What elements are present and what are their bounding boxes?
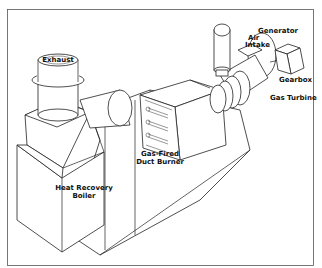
cogeneration-diagram: Exhaust Gas-Fired Duct Burner Gas Tu <box>0 0 322 268</box>
label-gas-turbine: Gas Turbine <box>270 94 317 102</box>
connecting-pipe <box>80 90 132 128</box>
label-duct-burner-1: Gas-Fired <box>141 150 179 158</box>
label-duct-burner-2: Duct Burner <box>136 158 184 166</box>
exhaust-stack: Exhaust <box>32 54 84 121</box>
label-generator: Generator <box>258 27 299 35</box>
label-air-intake-2: Intake <box>245 41 270 49</box>
label-exhaust: Exhaust <box>42 56 74 64</box>
label-boiler-1: Heat Recovery <box>55 184 113 192</box>
label-boiler-2: Boiler <box>72 192 96 200</box>
label-gearbox: Gearbox <box>279 76 312 84</box>
